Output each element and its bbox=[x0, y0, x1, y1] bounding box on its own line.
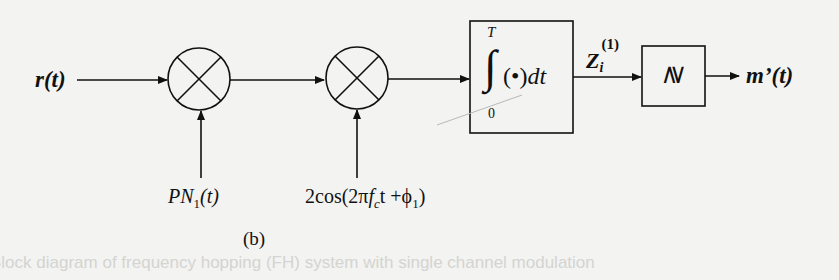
integral-operand: (•) bbox=[503, 63, 527, 89]
carrier-label: 2cos(2πfct +ϕ1) bbox=[305, 185, 425, 212]
z-sub: i bbox=[599, 60, 603, 76]
pn-tail: (t) bbox=[200, 185, 219, 207]
carrier-mid: t +ϕ bbox=[380, 185, 412, 207]
multiplier-2 bbox=[326, 47, 388, 109]
pn-sequence-label: PN1(t) bbox=[168, 185, 219, 212]
integral-sign: ∫ bbox=[484, 42, 497, 92]
integral-lower-limit: 0 bbox=[488, 106, 495, 122]
pn-base: PN bbox=[168, 185, 194, 207]
multiplier-1 bbox=[168, 48, 230, 110]
integral-body: (•)dt bbox=[503, 63, 546, 90]
carrier-close: ) bbox=[419, 185, 426, 207]
stray-mark bbox=[437, 95, 522, 125]
figure-caption: (b) bbox=[243, 228, 265, 250]
z-base: Z bbox=[586, 48, 599, 73]
carrier-prefix: 2cos(2π bbox=[305, 185, 368, 207]
input-label: r(t) bbox=[35, 67, 66, 93]
z-sup: (1) bbox=[601, 36, 619, 53]
integrator-output-label: Zi(1) bbox=[586, 48, 599, 74]
output-label: m’(t) bbox=[746, 63, 793, 89]
integral-upper-limit: T bbox=[487, 24, 495, 41]
block-diagram bbox=[0, 0, 839, 280]
integral-dt: dt bbox=[527, 63, 546, 89]
decision-symbol: ≷ bbox=[659, 64, 690, 86]
